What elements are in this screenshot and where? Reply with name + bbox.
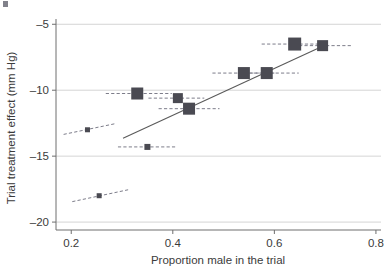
meta-regression-bubble-plot: –5–10–15–20 0.20.40.60.8 Proportion male… [0,0,384,271]
axes-group [56,19,381,230]
regression-line-group [123,46,324,139]
regression-line [123,46,324,139]
data-point-marker [144,144,150,150]
confidence-interval-lines-group [64,44,352,202]
y-tick-label-2: –15 [30,150,49,162]
x-tick-label-3: 0.8 [368,237,384,249]
data-point-marker [173,93,183,103]
y-tick-label-3: –20 [30,216,49,228]
y-axis-title: Trial treatment effect (mm Hg) [5,51,17,204]
x-tick-label-1: 0.4 [165,237,182,249]
x-tick-label-0: 0.2 [63,237,79,249]
data-point-marker [288,38,301,51]
y-tick-label-1: –10 [30,84,49,96]
data-point-marker [131,88,143,100]
data-points-group [85,38,328,199]
tickmarks-group [52,24,376,234]
data-point-marker [183,103,195,115]
x-axis-title: Proportion male in the trial [151,254,285,266]
data-point-marker [261,67,273,79]
data-point-marker [317,40,328,51]
gridlines-group [56,24,381,222]
x-tick-label-2: 0.6 [266,237,282,249]
y-axis-tick-labels: –5–10–15–20 [30,18,49,228]
data-point-marker [97,193,102,198]
x-axis-tick-labels: 0.20.40.60.8 [63,237,384,249]
y-tick-label-0: –5 [36,18,49,30]
chart-canvas: –5–10–15–20 0.20.40.60.8 Proportion male… [0,0,384,271]
data-point-marker [85,127,90,132]
data-point-marker [238,67,250,79]
